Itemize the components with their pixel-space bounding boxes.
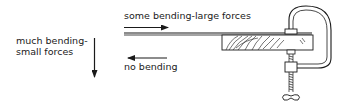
label-no-bending: no bending <box>124 61 177 72</box>
g-clamp-icon <box>283 6 332 100</box>
clamp-bending-diagram: some bending-large forces much bending- … <box>0 0 351 107</box>
label-small-forces: small forces <box>16 46 73 57</box>
wooden-block <box>222 35 313 50</box>
label-much-bending: much bending- <box>16 35 88 46</box>
label-some-bending-large-forces: some bending-large forces <box>124 10 251 21</box>
